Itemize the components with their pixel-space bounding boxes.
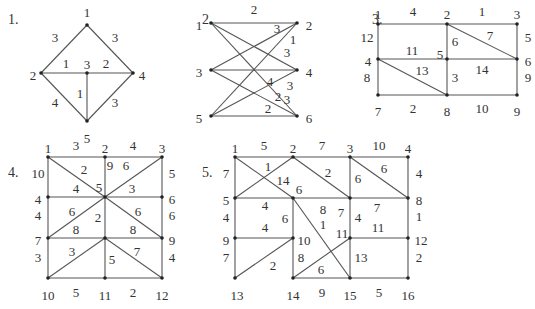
vertex-label: 6 xyxy=(306,111,313,126)
edge-13-10 xyxy=(235,238,293,278)
vertex-dot xyxy=(291,236,295,240)
graph-exercises-figure: 1.3312143123452.2333431221234563.4112567… xyxy=(0,0,535,309)
edge-weight-label: 13 xyxy=(355,250,368,265)
vertex-dot xyxy=(209,114,213,118)
vertex-dot xyxy=(445,93,449,97)
edge-weight-label: 5 xyxy=(73,285,80,300)
vertex-label: 8 xyxy=(444,104,451,119)
edge-weight-label: 2 xyxy=(265,101,272,116)
vertex-label: 9 xyxy=(169,233,176,248)
edge-weight-label: 6 xyxy=(135,204,142,219)
edge-weight-label: 11 xyxy=(372,220,385,235)
edge-weight-label: 14 xyxy=(476,62,490,77)
edge-weight-label: 3 xyxy=(69,244,76,259)
vertex-dot xyxy=(291,196,295,200)
vertex-dot xyxy=(445,22,449,26)
vertex-label: 1 xyxy=(84,5,91,20)
edge-weight-label: 3 xyxy=(52,30,59,45)
edge-weight-label: 8 xyxy=(130,222,137,237)
edge-weight-label: 7 xyxy=(319,138,326,153)
vertex-label: 2 xyxy=(306,18,313,33)
edge-weight-label: 2 xyxy=(81,162,88,177)
vertex-dot xyxy=(291,276,295,280)
vertex-label: 14 xyxy=(287,288,301,303)
vertex-label: 4 xyxy=(35,192,42,207)
vertex-dot xyxy=(406,236,410,240)
graph-3: 3.4112567111481339210123456789 xyxy=(361,4,532,119)
edge-weight-label: 6 xyxy=(282,211,289,226)
vertex-dot xyxy=(46,195,50,199)
edge-weight-label: 8 xyxy=(320,202,327,217)
vertex-dot xyxy=(515,57,519,61)
edge-weight-label: 4 xyxy=(130,138,137,153)
edge-weight-label: 2 xyxy=(95,210,102,225)
edge-weight-label: 3 xyxy=(73,138,80,153)
edge-weight-label: 12 xyxy=(361,30,374,45)
vertex-label: 5 xyxy=(84,131,91,146)
edge-weight-label: 7 xyxy=(223,166,230,181)
edge-weight-label: 2 xyxy=(416,250,423,265)
graph-title: 5. xyxy=(202,165,213,180)
vertex-dot xyxy=(160,195,164,199)
vertex-dot xyxy=(209,68,213,72)
vertex-dot xyxy=(515,93,519,97)
vertex-label: 11 xyxy=(99,288,112,303)
edge-weight-label: 8 xyxy=(73,222,80,237)
vertex-label: 5 xyxy=(96,180,103,195)
edge-weight-label: 5 xyxy=(109,252,116,267)
graph-title: 1. xyxy=(8,12,19,27)
edge-weight-label: 3 xyxy=(35,250,42,265)
edge-weight-label: 4 xyxy=(35,208,42,223)
edge-weight-label: 2 xyxy=(275,89,282,104)
vertex-dot xyxy=(39,71,43,75)
edge-weight-label: 4 xyxy=(73,181,80,196)
vertex-dot xyxy=(46,276,50,280)
vertex-label: 1 xyxy=(375,7,382,22)
edge-weight-label: 4 xyxy=(169,250,176,265)
vertex-label: 1 xyxy=(232,141,239,156)
edge-weight-label: 1 xyxy=(63,56,70,71)
graph-1: 1.331214312345 xyxy=(8,5,146,146)
vertex-label: 5 xyxy=(437,47,444,62)
edge-weight-label: 4 xyxy=(416,166,423,181)
vertex-dot xyxy=(131,71,135,75)
vertex-label: 8 xyxy=(416,193,423,208)
edge-weight-label: 4 xyxy=(223,210,230,225)
edge-weight-label: 6 xyxy=(318,262,325,277)
vertex-label: 11 xyxy=(336,226,349,241)
edge-weight-label: 4 xyxy=(355,210,362,225)
edge-weight-label: 1 xyxy=(479,4,486,19)
vertex-dot xyxy=(233,276,237,280)
vertex-label: 2 xyxy=(30,68,37,83)
vertex-label: 7 xyxy=(35,233,42,248)
edge-weight-label: 5 xyxy=(261,138,268,153)
vertex-label: 7 xyxy=(375,104,382,119)
vertex-dot xyxy=(515,22,519,26)
vertex-dot xyxy=(406,196,410,200)
vertex-label: 15 xyxy=(344,288,357,303)
vertex-label: 4 xyxy=(306,65,313,80)
edge-weight-label: 13 xyxy=(416,63,429,78)
vertex-dot xyxy=(46,236,50,240)
vertex-label: 9 xyxy=(514,104,521,119)
edge-weight-label: 3 xyxy=(112,30,119,45)
vertex-label: 6 xyxy=(169,192,176,207)
edge-weight-label: 14 xyxy=(277,173,291,188)
edge-weight-label: 8 xyxy=(364,70,371,85)
vertex-dot xyxy=(295,68,299,72)
vertex-label: 3 xyxy=(159,141,166,156)
edge-weight-label: 3 xyxy=(452,70,459,85)
vertex-label: 7 xyxy=(338,205,345,220)
vertex-dot xyxy=(348,276,352,280)
edge-weight-label: 5 xyxy=(169,166,176,181)
vertex-label: 3 xyxy=(347,141,354,156)
edge-4-5 xyxy=(87,73,133,121)
edge-weight-label: 11 xyxy=(406,43,419,58)
edge-weight-label: 3 xyxy=(284,92,291,107)
vertex-label: 2 xyxy=(290,141,297,156)
vertex-dot xyxy=(160,236,164,240)
edge-1-4 xyxy=(87,25,133,73)
edge-weight-label: 10 xyxy=(32,166,45,181)
vertex-dot xyxy=(103,236,107,240)
vertex-dot xyxy=(295,114,299,118)
